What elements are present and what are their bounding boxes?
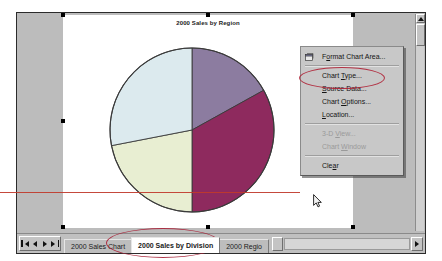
- scroll-right-button[interactable]: [411, 237, 423, 251]
- menu-item-label: 3-D View...: [322, 130, 356, 137]
- selection-handle-top-right[interactable]: [351, 13, 355, 17]
- chevron-right-icon: [415, 241, 419, 247]
- menu-item-chart-options[interactable]: Chart Options...: [301, 95, 403, 108]
- menu-separator: [305, 155, 399, 157]
- selection-handle-bottom-right[interactable]: [351, 225, 355, 229]
- last-sheet-icon: [51, 241, 55, 247]
- menu-separator: [305, 65, 399, 67]
- vertical-scrollbar[interactable]: [415, 14, 424, 231]
- chevron-up-icon: [418, 17, 424, 21]
- previous-sheet-icon: [33, 241, 37, 247]
- sheet-tab[interactable]: 2000 Sales Chart: [64, 239, 132, 253]
- menu-item-source-data[interactable]: Source Data...: [301, 82, 403, 95]
- next-sheet-icon: [43, 241, 47, 247]
- menu-item-label: Clear: [322, 162, 339, 169]
- menu-item-label: Chart Type...: [322, 72, 362, 79]
- excel-window-frame: 2000 Sales by Region Format Chart Area..…: [16, 12, 426, 254]
- sheet-nav-buttons[interactable]: [19, 236, 61, 251]
- selection-handle-top-left[interactable]: [61, 13, 65, 17]
- first-sheet-button[interactable]: [20, 238, 30, 249]
- menu-item-3-d-view: 3-D View...: [301, 127, 403, 140]
- chart-context-menu[interactable]: Format Chart Area...Chart Type...Source …: [300, 46, 404, 176]
- mouse-cursor: [313, 194, 322, 208]
- menu-item-format-chart-area[interactable]: Format Chart Area...: [301, 50, 403, 63]
- menu-item-label: Source Data...: [322, 85, 367, 92]
- selection-handle-bottom-center[interactable]: [206, 225, 210, 229]
- chart-title: 2000 Sales by Region: [63, 20, 353, 26]
- menu-item-chart-type[interactable]: Chart Type...: [301, 69, 403, 82]
- previous-sheet-button[interactable]: [30, 238, 40, 249]
- scroll-up-button[interactable]: [416, 14, 425, 23]
- menu-item-clear[interactable]: Clear: [301, 159, 403, 172]
- selection-handle-top-center[interactable]: [206, 13, 210, 17]
- bar-icon: [58, 240, 60, 247]
- selection-handle-bottom-left[interactable]: [61, 225, 65, 229]
- last-sheet-button[interactable]: [50, 238, 60, 249]
- sheet-tab-bar[interactable]: 2000 Sales Chart2000 Sales by Division20…: [17, 233, 425, 253]
- sheet-tab[interactable]: 2000 Regio: [219, 239, 269, 253]
- format-chart-area-icon: [305, 53, 314, 61]
- menu-item-chart-window: Chart Window: [301, 140, 403, 153]
- menu-item-label: Chart Options...: [322, 98, 371, 105]
- menu-item-label: Chart Window: [322, 143, 366, 150]
- pie-chart-svg: [107, 45, 277, 215]
- next-sheet-button[interactable]: [40, 238, 50, 249]
- first-sheet-icon: [25, 241, 29, 247]
- menu-item-label: Location...: [322, 111, 354, 118]
- pie-chart[interactable]: [107, 45, 277, 215]
- sheet-tab[interactable]: 2000 Sales by Division: [131, 237, 220, 253]
- selection-handle-middle-left[interactable]: [61, 119, 65, 123]
- tab-split-handle[interactable]: [272, 237, 283, 251]
- bar-icon: [21, 240, 23, 247]
- menu-item-location[interactable]: Location...: [301, 108, 403, 121]
- sheet-tabs[interactable]: 2000 Sales Chart2000 Sales by Division20…: [64, 234, 268, 253]
- scanned-page: 2000 Sales by Region Format Chart Area..…: [0, 0, 442, 261]
- vertical-scrollbar-thumb[interactable]: [416, 24, 425, 46]
- horizontal-scrollbar[interactable]: [284, 238, 410, 250]
- menu-separator: [305, 123, 399, 125]
- menu-item-label: Format Chart Area...: [322, 53, 385, 60]
- pie-slice[interactable]: [110, 48, 192, 146]
